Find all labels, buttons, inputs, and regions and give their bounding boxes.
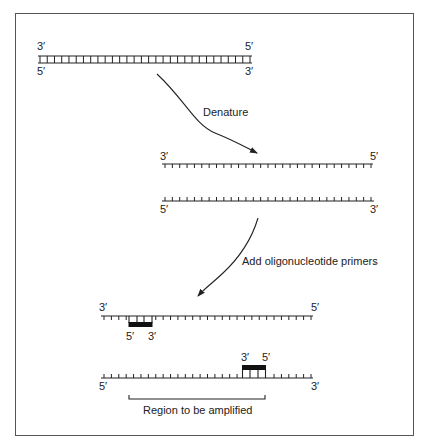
strand-a-left-label: 3′: [160, 151, 168, 162]
primer-reverse: [242, 365, 266, 378]
region-caption: Region to be amplified: [143, 405, 252, 416]
single-strand-b: [162, 197, 374, 201]
add-primers-step-label: Add oligonucleotide primers: [242, 256, 378, 267]
strand-d-left-label: 5′: [99, 381, 107, 392]
ds-top-left-label: 3′: [37, 41, 45, 52]
primer-reverse-right-label: 5′: [262, 352, 270, 363]
double-stranded-dna: [38, 56, 252, 63]
strand-a-right-label: 5′: [370, 151, 378, 162]
template-strand-bottom: [101, 374, 313, 378]
primer-forward-left-label: 5′: [126, 331, 134, 342]
denature-step-label: Denature: [203, 107, 248, 118]
strand-d-right-label: 3′: [311, 381, 319, 392]
strand-b-left-label: 5′: [160, 204, 168, 215]
ds-bottom-left-label: 5′: [37, 66, 45, 77]
primer-forward: [129, 316, 153, 327]
region-bracket: [129, 395, 265, 399]
primer-reverse-left-label: 3′: [241, 352, 249, 363]
primer-forward-right-label: 3′: [148, 331, 156, 342]
template-strand-top: [101, 316, 313, 320]
single-strand-a: [162, 164, 373, 168]
strand-b-right-label: 3′: [370, 204, 378, 215]
ds-top-right-label: 5′: [245, 41, 253, 52]
strand-c-left-label: 3′: [99, 302, 107, 313]
pcr-diagram: [0, 0, 427, 444]
strand-c-right-label: 5′: [311, 302, 319, 313]
ds-bottom-right-label: 3′: [245, 66, 253, 77]
